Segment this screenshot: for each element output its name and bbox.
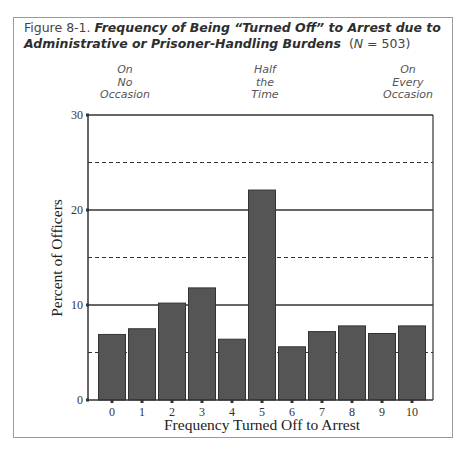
x-tick-label: 9 — [379, 405, 385, 419]
x-tick-mark — [411, 400, 414, 403]
y-axis-label: Percent of Officers — [48, 199, 65, 317]
bar-5 — [249, 190, 276, 400]
x-axis-label: Frequency Turned Off to Arrest — [164, 416, 361, 433]
bar-9 — [369, 334, 396, 401]
bar-10 — [399, 326, 426, 400]
x-tick-mark — [261, 400, 264, 403]
bar-6 — [279, 347, 306, 400]
bars — [99, 190, 426, 400]
x-tick-mark — [351, 400, 354, 403]
y-tick-mark — [86, 114, 89, 117]
x-tick-mark — [381, 400, 384, 403]
y-tick-mark — [86, 399, 89, 402]
bar-chart: 0102030 012345678910 Frequency Turned Of… — [0, 0, 465, 449]
bar-7 — [309, 332, 336, 400]
y-tick-label: 0 — [77, 393, 83, 407]
bar-0 — [99, 334, 126, 400]
y-tick-mark — [86, 209, 89, 212]
bar-1 — [129, 329, 156, 400]
x-tick-mark — [291, 400, 294, 403]
bar-4 — [219, 339, 246, 400]
y-tick-labels: 0102030 — [71, 108, 83, 407]
x-tick-mark — [201, 400, 204, 403]
x-tick-label: 0 — [109, 405, 115, 419]
x-tick-label: 10 — [406, 405, 418, 419]
y-tick-label: 20 — [71, 203, 83, 217]
x-tick-mark — [321, 400, 324, 403]
x-tick-mark — [231, 400, 234, 403]
bar-2 — [159, 303, 186, 400]
x-tick-mark — [171, 400, 174, 403]
x-tick-mark — [111, 400, 114, 403]
x-tick-label: 1 — [139, 405, 145, 419]
bar-8 — [339, 326, 366, 400]
bar-3 — [189, 288, 216, 400]
y-tick-mark — [86, 304, 89, 307]
x-tick-mark — [141, 400, 144, 403]
y-tick-label: 10 — [71, 298, 83, 312]
y-tick-label: 30 — [71, 108, 83, 122]
